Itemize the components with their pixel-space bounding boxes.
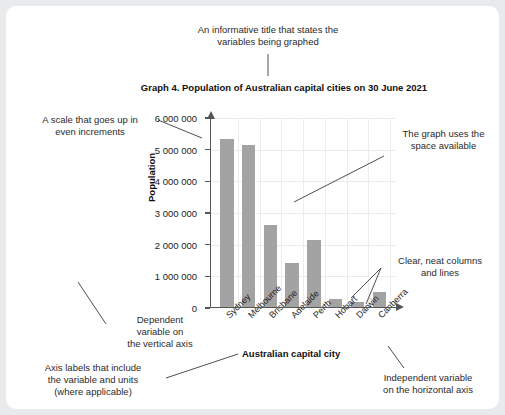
leader-lines bbox=[6, 6, 505, 415]
screenshot-card: An informative title that states the var… bbox=[6, 6, 499, 409]
